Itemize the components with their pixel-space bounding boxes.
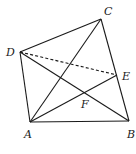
segment-da xyxy=(20,52,30,122)
label-b: B xyxy=(126,128,135,141)
geometry-diagram: A B C D E F xyxy=(0,0,136,154)
segment-ae xyxy=(30,75,117,122)
label-d: D xyxy=(5,46,15,59)
segment-ab xyxy=(30,121,129,122)
segment-cd xyxy=(20,19,101,52)
label-f: F xyxy=(80,98,89,111)
label-e: E xyxy=(121,70,130,83)
segment-ac xyxy=(30,19,101,122)
segments xyxy=(20,19,129,122)
label-c: C xyxy=(104,5,113,18)
segment-de-dashed xyxy=(20,52,117,75)
label-a: A xyxy=(23,128,32,141)
